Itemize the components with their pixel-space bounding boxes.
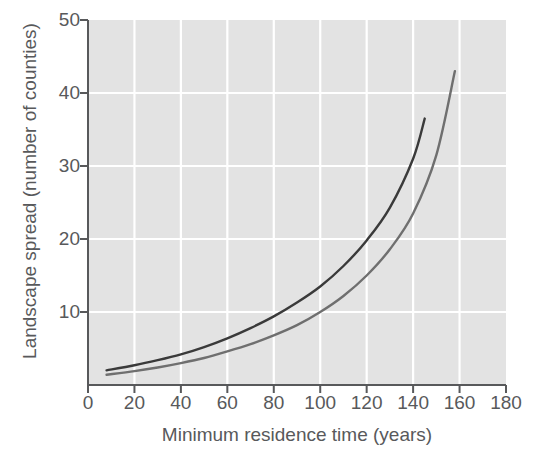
x-tick-labels: 020406080100120140160180 (0, 393, 541, 419)
x-axis-title: Minimum residence time (years) (88, 424, 506, 446)
chart-figure: Landscape spread (number of counties) 10… (0, 0, 541, 461)
x-tick-label: 180 (476, 393, 536, 412)
